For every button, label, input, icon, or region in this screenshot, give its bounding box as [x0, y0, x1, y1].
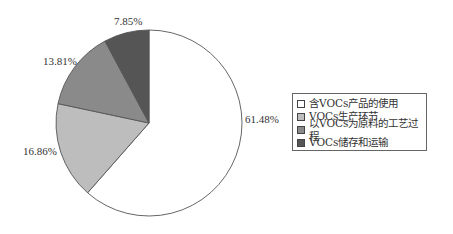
legend-swatch-icon — [297, 126, 305, 134]
label-16-86: 16.86% — [23, 145, 57, 157]
legend-swatch-icon — [297, 113, 305, 121]
legend-label: 含VOCs产品的使用 — [309, 97, 398, 110]
legend: 含VOCs产品的使用 VOCs生产环节 以VOCs为原料的工艺过程 VOCs储存… — [292, 93, 427, 151]
legend-item-raw-material-process: 以VOCs为原料的工艺过程 — [297, 123, 422, 136]
legend-swatch-icon — [297, 100, 305, 108]
legend-item-product-use: 含VOCs产品的使用 — [297, 97, 422, 110]
label-61-48: 61.48% — [245, 113, 279, 125]
legend-label: VOCs储存和运输 — [309, 136, 388, 149]
legend-swatch-icon — [297, 139, 305, 147]
label-7-85: 7.85% — [114, 15, 142, 27]
label-13-81: 13.81% — [43, 55, 77, 67]
